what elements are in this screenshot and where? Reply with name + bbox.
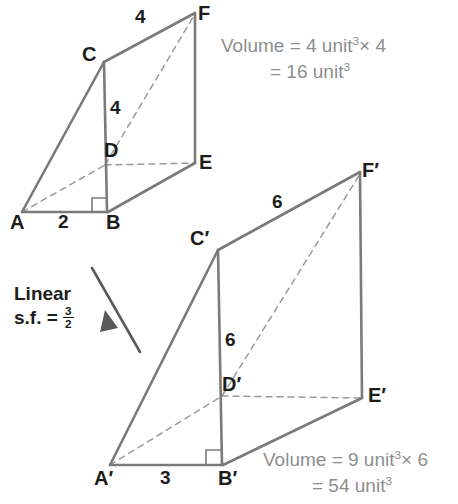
volume-large-line2-exponent: 3 (385, 473, 392, 486)
edge-E-B (108, 163, 195, 212)
volume-large-line1-prefix: Volume = 9 unit (263, 449, 395, 470)
dimension-CF: 4 (135, 7, 146, 26)
dimension-ApBp: 3 (160, 468, 171, 487)
volume-small-line2-prefix: = 16 unit (270, 61, 343, 82)
vertex-label-F-prime: F′ (362, 160, 379, 180)
vertex-label-D: D (104, 140, 118, 160)
large-prism-visible-edges (110, 172, 362, 465)
arrow-head (100, 310, 118, 332)
volume-small-line1: Volume = 4 unit3× 4 (221, 33, 386, 59)
vertex-label-E-prime: E′ (368, 385, 386, 405)
scale-factor-line1: Linear (14, 283, 74, 305)
edge-Cp-Fp (218, 172, 360, 250)
vertex-label-A: A (10, 212, 24, 232)
edge-Ap-Cp (110, 250, 218, 465)
edge-Cp-Bp (218, 250, 222, 465)
edge-D-E (105, 163, 195, 165)
volume-note-large: Volume = 9 unit3× 6 = 54 unit3 (263, 447, 428, 498)
volume-large-line1: Volume = 9 unit3× 6 (263, 447, 428, 473)
large-prism-hidden-edges (110, 174, 362, 465)
diagram-canvas: A B C D E F 2 4 4 A′ B′ C′ D′ E′ F′ 3 6 … (0, 0, 458, 504)
scale-factor-arrow (92, 268, 140, 352)
arrow-shaft (92, 268, 140, 352)
dimension-CD: 4 (110, 98, 121, 117)
dimension-CpFp: 6 (272, 192, 283, 211)
scale-factor-prefix: s.f. = (14, 307, 63, 328)
scale-factor-fraction: 32 (63, 305, 74, 330)
fraction-numerator: 3 (63, 305, 74, 317)
edge-Dp-Ep (222, 396, 362, 398)
volume-note-small: Volume = 4 unit3× 4 = 16 unit3 (221, 33, 386, 84)
vertex-label-D-prime: D′ (222, 374, 241, 394)
dimension-AB: 2 (58, 212, 69, 231)
volume-small-line1-prefix: Volume = 4 unit (221, 35, 353, 56)
vertex-label-F: F (198, 3, 210, 23)
vertex-label-A-prime: A′ (94, 468, 113, 488)
edge-C-B (104, 62, 107, 212)
right-angle-marker-B (92, 198, 107, 212)
vertex-label-B: B (106, 212, 120, 232)
volume-large-line2-prefix: = 54 unit (312, 475, 385, 496)
vertex-label-C: C (82, 44, 96, 64)
vertex-label-C-prime: C′ (190, 228, 209, 248)
small-prism-visible-edges (22, 13, 195, 212)
vertex-label-B-prime: B′ (218, 468, 237, 488)
volume-large-line2: = 54 unit3 (263, 473, 428, 499)
edge-Fp-Ep (360, 172, 362, 398)
vertex-label-E: E (199, 152, 212, 172)
scale-factor-note: Linear s.f. = 32 (14, 283, 74, 330)
scale-factor-line2: s.f. = 32 (14, 305, 74, 330)
volume-small-line2-exponent: 3 (343, 59, 350, 72)
volume-large-line1-suffix: × 6 (401, 449, 428, 470)
fraction-denominator: 2 (63, 317, 74, 330)
dimension-CpDp: 6 (225, 330, 236, 349)
volume-small-line2: = 16 unit3 (221, 59, 386, 85)
volume-small-line1-suffix: × 4 (359, 35, 386, 56)
small-prism-hidden-edges (22, 14, 195, 212)
right-angle-marker-Bp (206, 450, 222, 465)
edge-Dp-Fp (222, 174, 360, 396)
